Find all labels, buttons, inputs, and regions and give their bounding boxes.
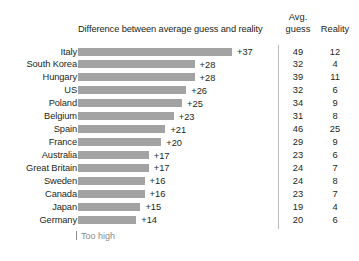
reality-value: 7 bbox=[315, 189, 355, 199]
chart-row: Great Britain+17247 bbox=[0, 162, 359, 175]
difference-bar bbox=[78, 138, 161, 146]
reality-value: 25 bbox=[315, 124, 355, 134]
bar-value-label: +14 bbox=[136, 215, 157, 225]
bar-wrapper: +26 bbox=[78, 86, 186, 94]
chart-row: Poland+25349 bbox=[0, 98, 359, 111]
too-high-annotation: Too high bbox=[76, 231, 115, 241]
bar-wrapper: +20 bbox=[78, 138, 161, 146]
difference-bar bbox=[78, 151, 149, 159]
country-label: Belgium bbox=[0, 111, 77, 121]
bar-value-label: +28 bbox=[195, 60, 216, 70]
bar-wrapper: +21 bbox=[78, 125, 165, 133]
reality-value: 9 bbox=[315, 137, 355, 147]
reality-value: 6 bbox=[315, 215, 355, 225]
chart-container: Difference between average guess and rea… bbox=[0, 0, 359, 261]
difference-bar bbox=[78, 86, 186, 94]
difference-bar bbox=[78, 112, 174, 120]
bar-wrapper: +23 bbox=[78, 112, 174, 120]
country-label: Italy bbox=[0, 47, 77, 57]
reality-value: 6 bbox=[315, 85, 355, 95]
country-label: Sweden bbox=[0, 176, 77, 186]
chart-row: Germany+14206 bbox=[0, 214, 359, 227]
bar-wrapper: +15 bbox=[78, 203, 140, 211]
avg-guess-value: 24 bbox=[283, 163, 313, 173]
reality-value: 6 bbox=[315, 150, 355, 160]
country-label: South Korea bbox=[0, 59, 77, 69]
column-header-avg-line1: Avg. bbox=[283, 12, 313, 22]
avg-guess-value: 46 bbox=[283, 124, 313, 134]
chart-row: Spain+214625 bbox=[0, 124, 359, 137]
difference-bar bbox=[78, 73, 195, 81]
bar-value-label: +23 bbox=[174, 112, 195, 122]
difference-bar bbox=[78, 99, 182, 107]
difference-bar bbox=[78, 164, 149, 172]
bar-wrapper: +25 bbox=[78, 99, 182, 107]
difference-bar bbox=[78, 177, 145, 185]
bar-value-label: +37 bbox=[232, 47, 253, 57]
bar-wrapper: +14 bbox=[78, 216, 136, 224]
country-label: Spain bbox=[0, 124, 77, 134]
chart-row: Australia+17236 bbox=[0, 150, 359, 163]
avg-guess-value: 31 bbox=[283, 111, 313, 121]
bar-value-label: +26 bbox=[186, 86, 207, 96]
reality-value: 8 bbox=[315, 111, 355, 121]
chart-row: Japan+15194 bbox=[0, 201, 359, 214]
bar-wrapper: +17 bbox=[78, 151, 149, 159]
chart-title: Difference between average guess and rea… bbox=[78, 24, 263, 34]
difference-bar bbox=[78, 190, 145, 198]
chart-row: Canada+16237 bbox=[0, 188, 359, 201]
avg-guess-value: 32 bbox=[283, 85, 313, 95]
avg-guess-value: 20 bbox=[283, 215, 313, 225]
bar-wrapper: +16 bbox=[78, 190, 145, 198]
bar-value-label: +25 bbox=[182, 99, 203, 109]
chart-row: South Korea+28324 bbox=[0, 59, 359, 72]
chart-row: US+26326 bbox=[0, 85, 359, 98]
reality-value: 11 bbox=[315, 72, 355, 82]
country-label: Poland bbox=[0, 98, 77, 108]
reality-value: 7 bbox=[315, 163, 355, 173]
avg-guess-value: 19 bbox=[283, 202, 313, 212]
too-high-label: Too high bbox=[81, 231, 115, 241]
column-header-avg-guess: guess bbox=[283, 24, 313, 34]
bar-value-label: +17 bbox=[149, 163, 170, 173]
avg-guess-value: 49 bbox=[283, 47, 313, 57]
country-label: Canada bbox=[0, 189, 77, 199]
avg-guess-value: 29 bbox=[283, 137, 313, 147]
country-label: US bbox=[0, 85, 77, 95]
bar-wrapper: +28 bbox=[78, 60, 195, 68]
reality-value: 9 bbox=[315, 98, 355, 108]
tick-mark-icon bbox=[76, 231, 77, 240]
chart-rows: Italy+374912South Korea+28324Hungary+283… bbox=[0, 46, 359, 227]
bar-value-label: +15 bbox=[140, 202, 161, 212]
column-header-reality: Reality bbox=[315, 24, 355, 34]
reality-value: 4 bbox=[315, 59, 355, 69]
bar-wrapper: +37 bbox=[78, 48, 232, 56]
country-label: Hungary bbox=[0, 72, 77, 82]
avg-guess-value: 23 bbox=[283, 189, 313, 199]
avg-guess-value: 24 bbox=[283, 176, 313, 186]
bar-value-label: +17 bbox=[149, 151, 170, 161]
country-label: Australia bbox=[0, 150, 77, 160]
difference-bar bbox=[78, 48, 232, 56]
difference-bar bbox=[78, 203, 140, 211]
country-label: Germany bbox=[0, 215, 77, 225]
reality-value: 12 bbox=[315, 47, 355, 57]
reality-value: 8 bbox=[315, 176, 355, 186]
bar-value-label: +16 bbox=[145, 189, 166, 199]
bar-value-label: +16 bbox=[145, 176, 166, 186]
bar-value-label: +20 bbox=[161, 138, 182, 148]
chart-row: Sweden+16248 bbox=[0, 175, 359, 188]
chart-row: Hungary+283911 bbox=[0, 72, 359, 85]
difference-bar bbox=[78, 216, 136, 224]
difference-bar bbox=[78, 60, 195, 68]
country-label: Japan bbox=[0, 202, 77, 212]
bar-wrapper: +17 bbox=[78, 164, 149, 172]
reality-value: 4 bbox=[315, 202, 355, 212]
bar-value-label: +28 bbox=[195, 73, 216, 83]
difference-bar bbox=[78, 125, 165, 133]
avg-guess-value: 32 bbox=[283, 59, 313, 69]
bar-value-label: +21 bbox=[165, 125, 186, 135]
avg-guess-value: 23 bbox=[283, 150, 313, 160]
chart-row: Belgium+23318 bbox=[0, 111, 359, 124]
bar-wrapper: +28 bbox=[78, 73, 195, 81]
